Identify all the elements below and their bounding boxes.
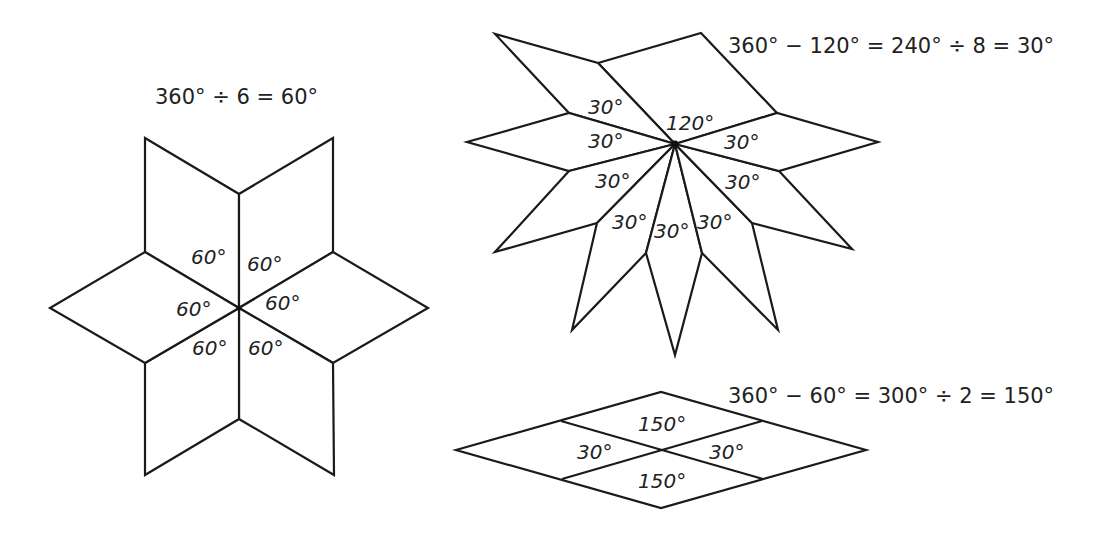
angle-label-30-2: 30° [588, 129, 623, 153]
split-rhombus: 150° 30° 30° 150° 360° − 60° = 300° ÷ 2 … [456, 384, 1054, 508]
angle-label-150-bottom: 150° [638, 469, 686, 493]
angle-label-30-3: 30° [595, 169, 630, 193]
star-center-dot [237, 306, 242, 311]
split-rhombus-equation: 360° − 60° = 300° ÷ 2 = 150° [728, 384, 1054, 408]
angle-label-60-right: 60° [265, 291, 300, 315]
angle-label-30-4: 30° [612, 210, 647, 234]
ten-star-equation: 360° − 120° = 240° ÷ 8 = 30° [728, 34, 1054, 58]
six-star-equation: 360° ÷ 6 = 60° [155, 85, 318, 109]
angle-label-60-upper-left: 60° [191, 245, 226, 269]
angle-label-30-7: 30° [725, 170, 760, 194]
angle-label-30-left: 30° [577, 440, 612, 464]
angle-label-60-upper-right: 60° [247, 252, 282, 276]
angle-label-60-lower-right: 60° [248, 336, 283, 360]
diamond-angle-diagram: 60° 60° 60° 60° 60° 60° 360° ÷ 6 = 60° 1… [0, 0, 1111, 536]
angle-label-120: 120° [666, 111, 714, 135]
angle-label-30-right: 30° [709, 440, 744, 464]
angle-label-150-top: 150° [638, 412, 686, 436]
six-point-star: 60° 60° 60° 60° 60° 60° 360° ÷ 6 = 60° [50, 85, 428, 475]
angle-label-30-8: 30° [724, 130, 759, 154]
star-center-dot [672, 141, 679, 148]
angle-label-60-left: 60° [176, 297, 211, 321]
angle-label-30-1: 30° [588, 95, 623, 119]
angle-label-60-lower-left: 60° [192, 336, 227, 360]
angle-label-30-6: 30° [697, 210, 732, 234]
angle-label-30-5: 30° [654, 219, 689, 243]
ten-piece-star: 120° 30° 30° 30° 30° 30° 30° 30° 30° 360… [467, 33, 1054, 355]
